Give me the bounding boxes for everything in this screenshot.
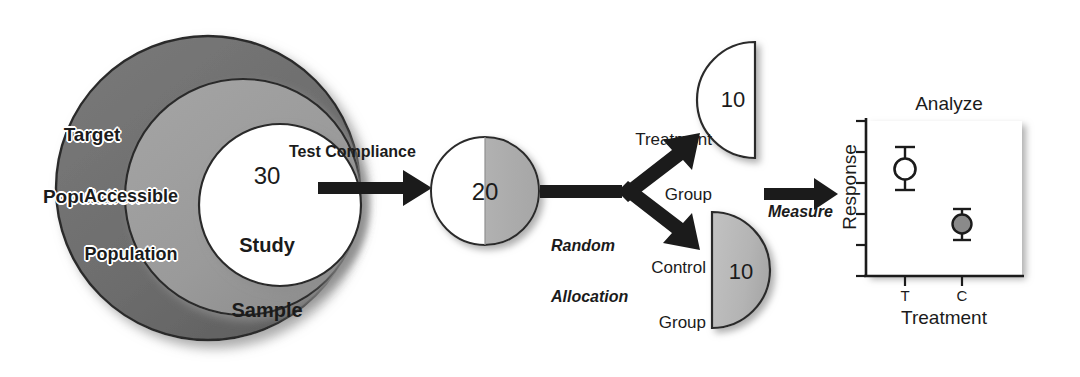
study-sample-count: 30 (222, 163, 312, 189)
chart-x-axis-label: Treatment (866, 308, 1022, 329)
target-population-label-line1: Target (12, 125, 172, 146)
study-sample-label-line2: Sample (222, 300, 312, 322)
study-sample-label: Study Sample (222, 192, 312, 365)
control-group-label-line2: Group (562, 314, 706, 332)
measure-label: Measure (768, 203, 833, 220)
accessible-population-label-line1: Accessible (48, 187, 214, 206)
chart-y-axis-label: Response (840, 112, 861, 262)
chart-x-tick-label-t: T (890, 288, 920, 304)
treatment-group-count: 10 (705, 88, 761, 112)
control-group-count: 10 (713, 260, 769, 284)
accessible-population-label: Accessible Population (48, 148, 214, 304)
study-sample-label-line1: Study (222, 235, 312, 257)
control-group-label: Control Group (562, 222, 706, 369)
diagram-canvas: Target Population Accessible Population … (0, 0, 1080, 377)
treatment-group-label: Treatment Group (562, 94, 712, 241)
treatment-group-label-line1: Treatment (562, 131, 712, 149)
chart-x-tick-label-c: C (947, 288, 977, 304)
chart-title: Analyze (874, 94, 1024, 115)
control-group-label-line1: Control (562, 259, 706, 277)
analyze-chart (856, 118, 1024, 286)
treatment-group-label-line2: Group (562, 186, 712, 204)
accessible-population-label-line2: Population (48, 245, 214, 264)
chart-x-ticks (905, 276, 962, 286)
compliant-sample-count: 20 (455, 179, 515, 205)
test-compliance-label: Test Compliance (289, 143, 416, 160)
